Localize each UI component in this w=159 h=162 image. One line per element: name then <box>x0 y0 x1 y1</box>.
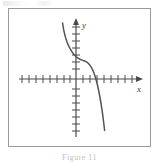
x-axis <box>19 76 143 82</box>
cubic-curve <box>63 23 105 131</box>
x-axis-label: x <box>136 84 141 94</box>
figure-frame: y x <box>8 8 151 147</box>
y-axis <box>73 18 79 137</box>
figure-caption: Figure 11 <box>0 151 159 162</box>
figure-container: y x Figure 11 <box>0 0 159 162</box>
scan-artifact-top <box>3 1 73 6</box>
coordinate-plane: y x <box>9 9 149 145</box>
y-axis-label: y <box>81 20 86 30</box>
